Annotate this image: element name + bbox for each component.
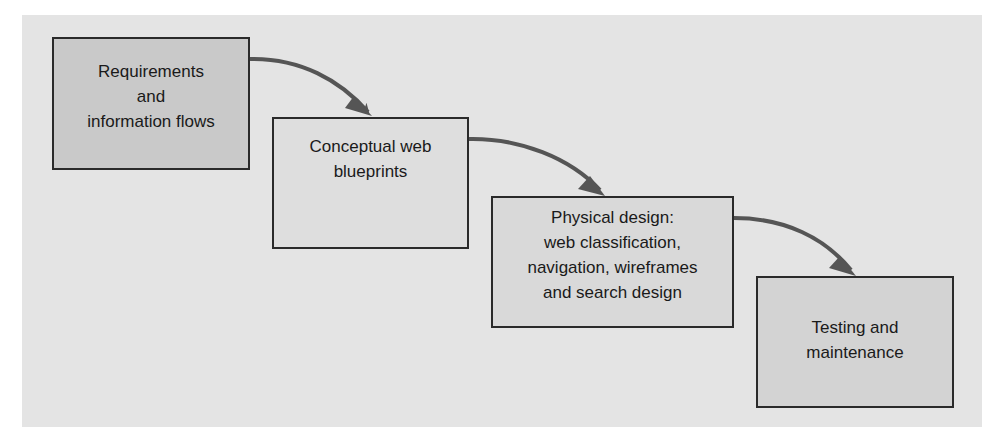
step-testing-label: Testing and maintenance [806,315,903,365]
step-conceptual-label: Conceptual web blueprints [310,134,432,184]
step-physical-design-box: Physical design: web classification, nav… [491,196,734,328]
arrow-step3-to-step4 [734,218,856,276]
step-requirements-box: Requirements and information flows [52,37,250,170]
step-requirements-label: Requirements and information flows [87,59,215,134]
step-conceptual-box: Conceptual web blueprints [272,117,469,249]
arrow-step1-to-step2 [250,59,372,116]
step-physical-design-label: Physical design: web classification, nav… [527,205,697,305]
step-testing-box: Testing and maintenance [756,276,954,408]
arrow-step2-to-step3 [469,139,605,196]
